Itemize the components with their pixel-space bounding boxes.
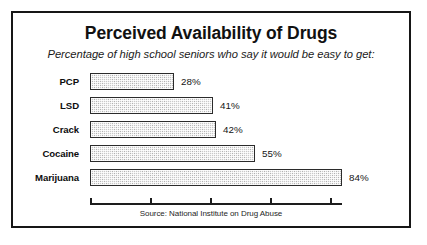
bar-rect-crack: [90, 121, 216, 138]
bar-chart-plot-area: PCP 28% LSD 41% Crack 42% Cocaine: [13, 73, 409, 203]
bar-category-label: Crack: [13, 121, 79, 138]
bar-row: Crack 42%: [13, 121, 409, 138]
bar-row: Marijuana 84%: [13, 169, 409, 186]
bar-rect-marijuana: [90, 169, 342, 186]
bar-category-label: LSD: [13, 97, 79, 114]
x-axis-tick: [330, 198, 332, 205]
x-axis-tick: [150, 198, 152, 205]
bar-category-label: Cocaine: [13, 145, 79, 162]
bar-rect-cocaine: [90, 145, 255, 162]
source-note: Source: National Institute on Drug Abuse: [13, 209, 409, 218]
x-axis-tick: [270, 198, 272, 205]
bar-value-label: 84%: [349, 169, 369, 186]
bar-category-label: Marijuana: [13, 169, 79, 186]
bar-row: LSD 41%: [13, 97, 409, 114]
bar-value-label: 41%: [220, 97, 240, 114]
bar-rect-pcp: [90, 73, 174, 90]
bar-category-label: PCP: [13, 73, 79, 90]
bar-row: PCP 28%: [13, 73, 409, 90]
chart-card: Perceived Availability of Drugs Percenta…: [11, 11, 411, 228]
chart-subtitle: Percentage of high school seniors who sa…: [13, 48, 409, 60]
x-axis: [90, 196, 342, 205]
bar-value-label: 42%: [223, 121, 243, 138]
x-axis-line: [90, 203, 342, 205]
bar-rect-lsd: [90, 97, 213, 114]
bar-value-label: 28%: [181, 73, 201, 90]
x-axis-tick: [90, 198, 92, 205]
page-title: Perceived Availability of Drugs: [13, 23, 409, 44]
x-axis-tick: [210, 198, 212, 205]
bar-value-label: 55%: [262, 145, 282, 162]
bar-row: Cocaine 55%: [13, 145, 409, 162]
